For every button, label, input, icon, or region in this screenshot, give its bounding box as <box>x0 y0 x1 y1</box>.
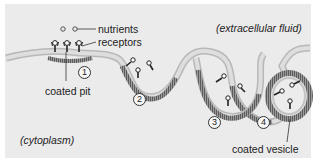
nutrient-icons <box>61 27 96 31</box>
cytoplasm-label: (cytoplasm) <box>20 135 74 146</box>
extracellular-fluid-label: (extracellular fluid) <box>216 23 302 34</box>
coated-vesicle-label: coated vesicle <box>232 144 299 155</box>
coat-pit-1 <box>48 58 92 61</box>
coated-vesicle-leader <box>287 119 290 142</box>
receptors-label: receptors <box>98 37 142 48</box>
coated-pit-label: coated pit <box>45 86 91 97</box>
coated-vesicle-4 <box>268 73 310 119</box>
step-3-badge: 3 <box>208 116 221 129</box>
step-4-badge: 4 <box>257 116 270 129</box>
step-1-badge: 1 <box>78 66 91 79</box>
nutrients-label: nutrients <box>98 24 138 35</box>
step-2-badge: 2 <box>133 93 146 106</box>
